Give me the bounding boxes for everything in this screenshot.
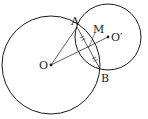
label-o: O bbox=[39, 59, 48, 72]
label-m: M bbox=[93, 23, 104, 36]
segment-oa bbox=[51, 27, 77, 65]
label-a: A bbox=[70, 15, 80, 28]
point-o-prime bbox=[107, 36, 110, 39]
point-o bbox=[50, 64, 53, 67]
label-b: B bbox=[101, 72, 109, 85]
geometry-diagram: A B M O O′ bbox=[0, 0, 148, 119]
label-o-prime: O′ bbox=[111, 31, 123, 44]
